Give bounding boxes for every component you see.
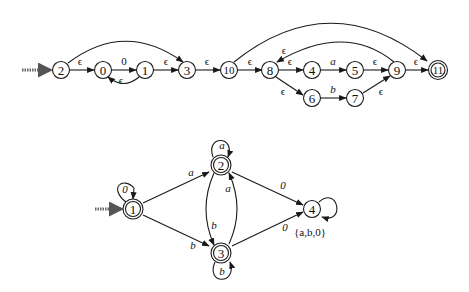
- state-2: 2: [53, 62, 70, 79]
- edge-label: a: [219, 139, 225, 151]
- edge-1-2: [143, 172, 209, 203]
- edge-label: ϵ: [78, 55, 83, 67]
- edge-label: b: [211, 219, 217, 231]
- edge-label: ϵ: [282, 44, 287, 56]
- state-4: 4: [304, 201, 321, 218]
- svg-text:2: 2: [218, 158, 225, 173]
- edge-label: 0: [122, 183, 128, 195]
- state-4: 4: [304, 62, 321, 79]
- edge-label: ϵ: [164, 55, 169, 67]
- edge-label: ϵ: [248, 55, 253, 67]
- state-11-accept: 11: [429, 61, 448, 80]
- state-9: 9: [389, 62, 406, 79]
- svg-text:6: 6: [309, 91, 316, 106]
- edge-1-0: [108, 77, 139, 84]
- edge-label: 0: [280, 179, 286, 191]
- edge-7-9: [363, 76, 390, 93]
- state-6: 6: [304, 90, 321, 107]
- edge-label: {a,b,0}: [294, 226, 326, 238]
- edge-4-4: [319, 198, 337, 218]
- state-10: 10: [221, 62, 238, 79]
- svg-text:11: 11: [433, 64, 444, 76]
- edge-label: b: [219, 265, 225, 277]
- state-3: 3: [179, 62, 196, 79]
- edge-label: ϵ: [281, 85, 286, 97]
- edge-label: ϵ: [205, 55, 210, 67]
- svg-text:7: 7: [352, 91, 359, 106]
- state-5: 5: [347, 62, 364, 79]
- nfa-diagram: ϵ 0 ϵ ϵ ϵ ϵ ϵ a ϵ ϵ b ϵ ϵ ϵ 2 0 1 3: [22, 23, 448, 106]
- dfa-diagram: 0 a b a b a b 0 0 {a,b,0} 1 2 3 4: [95, 139, 337, 279]
- edge-label: ϵ: [379, 85, 384, 97]
- svg-text:2: 2: [58, 63, 65, 78]
- svg-text:1: 1: [130, 202, 137, 217]
- edge-label: ϵ: [414, 55, 419, 67]
- edge-label: b: [330, 83, 336, 95]
- edge-1-3: [143, 215, 209, 246]
- svg-text:9: 9: [394, 63, 401, 78]
- edge-label: ϵ: [119, 74, 124, 86]
- svg-text:0: 0: [100, 63, 107, 78]
- edge-label: a: [225, 182, 231, 194]
- state-2-accept: 2: [211, 155, 231, 175]
- edge-3-4: [232, 212, 303, 246]
- edge-label: 0: [121, 55, 127, 67]
- state-1: 1: [137, 62, 154, 79]
- svg-text:10: 10: [224, 64, 236, 76]
- svg-text:3: 3: [218, 246, 225, 261]
- edge-2-4: [232, 172, 303, 205]
- edge-label: b: [190, 239, 196, 251]
- state-3-accept: 3: [211, 243, 231, 263]
- edge-2-3: [206, 173, 214, 245]
- state-0: 0: [95, 62, 112, 79]
- state-8: 8: [262, 62, 279, 79]
- edge-label: ϵ: [288, 55, 293, 67]
- svg-text:3: 3: [184, 63, 191, 78]
- svg-text:1: 1: [142, 63, 149, 78]
- state-7: 7: [347, 90, 364, 107]
- svg-text:5: 5: [352, 63, 359, 78]
- edge-label: a: [188, 166, 194, 178]
- svg-text:4: 4: [309, 202, 316, 217]
- edge-label: 0: [282, 221, 288, 233]
- svg-text:4: 4: [309, 63, 316, 78]
- edge-label: ϵ: [373, 55, 378, 67]
- edge-label: a: [330, 55, 336, 67]
- state-1-accept: 1: [123, 199, 143, 219]
- svg-text:8: 8: [267, 63, 274, 78]
- automata-figure: ϵ 0 ϵ ϵ ϵ ϵ ϵ a ϵ ϵ b ϵ ϵ ϵ 2 0 1 3: [0, 0, 469, 292]
